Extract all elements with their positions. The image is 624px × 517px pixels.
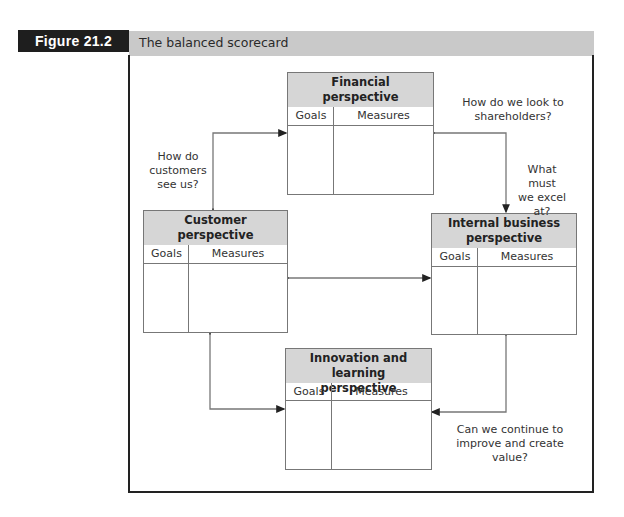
measures-header: Measures bbox=[334, 107, 433, 124]
innovation-learning-perspective-box: Innovation and learning perspective Goal… bbox=[285, 348, 432, 470]
measures-header: Measures bbox=[478, 248, 576, 265]
question-line: improve and create value? bbox=[440, 437, 580, 465]
box-header: Financial perspective bbox=[288, 73, 433, 107]
column-divider bbox=[188, 245, 189, 332]
box-header: Innovation and learning perspective bbox=[286, 349, 431, 383]
question-line: customers bbox=[148, 164, 208, 178]
measures-header: Measures bbox=[189, 245, 287, 262]
question-customers: How do customers see us? bbox=[148, 150, 208, 192]
question-line: we excel bbox=[512, 191, 572, 205]
goals-header: Goals bbox=[288, 107, 334, 124]
arrow-customer-innovation bbox=[210, 334, 284, 409]
arrow-customer-financial bbox=[213, 133, 286, 209]
question-shareholders: How do we look to shareholders? bbox=[448, 96, 578, 124]
goals-header: Goals bbox=[432, 248, 478, 265]
question-line: at? bbox=[512, 205, 572, 219]
measures-header: Measures bbox=[332, 383, 431, 400]
question-line: How do bbox=[148, 150, 208, 164]
box-title: Innovation and learning bbox=[286, 351, 431, 381]
column-headers: Goals Measures bbox=[432, 248, 576, 267]
box-title: perspective bbox=[288, 90, 433, 105]
arrow-financial-internal bbox=[434, 133, 506, 212]
box-title: perspective bbox=[144, 228, 287, 243]
column-divider bbox=[477, 248, 478, 334]
box-title: Financial bbox=[288, 75, 433, 90]
financial-perspective-box: Financial perspective Goals Measures bbox=[287, 72, 434, 195]
goals-header: Goals bbox=[286, 383, 332, 400]
question-line: Can we continue to bbox=[440, 423, 580, 437]
question-line: shareholders? bbox=[448, 110, 578, 124]
column-divider bbox=[333, 107, 334, 194]
customer-perspective-box: Customer perspective Goals Measures bbox=[143, 210, 288, 333]
box-header: Customer perspective bbox=[144, 211, 287, 245]
goals-header: Goals bbox=[144, 245, 189, 262]
internal-business-perspective-box: Internal business perspective Goals Meas… bbox=[431, 213, 577, 335]
arrow-internal-innovation bbox=[432, 335, 506, 412]
question-improve: Can we continue to improve and create va… bbox=[440, 423, 580, 465]
question-line: What must bbox=[512, 163, 572, 191]
column-headers: Goals Measures bbox=[144, 245, 287, 264]
column-headers: Goals Measures bbox=[288, 107, 433, 126]
column-headers: Goals Measures bbox=[286, 383, 431, 401]
box-title: Customer bbox=[144, 213, 287, 228]
question-line: see us? bbox=[148, 178, 208, 192]
box-title: perspective bbox=[432, 231, 576, 246]
question-excel: What must we excel at? bbox=[512, 163, 572, 219]
box-header: Internal business perspective bbox=[432, 214, 576, 248]
column-divider bbox=[331, 383, 332, 469]
question-line: How do we look to bbox=[448, 96, 578, 110]
